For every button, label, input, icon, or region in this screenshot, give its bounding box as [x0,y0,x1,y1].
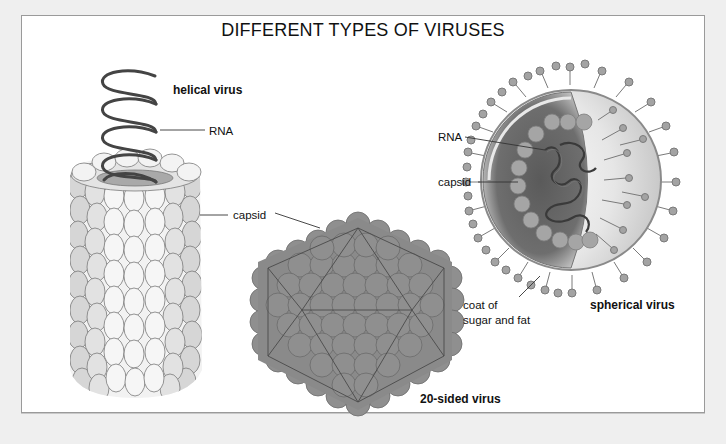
helical-virus-illustration [60,71,210,410]
icosahedral-virus-illustration [250,210,464,420]
label-helical-capsid: capsid [233,208,266,222]
label-helical-virus: helical virus [173,83,242,97]
virus-illustrations [0,0,726,444]
label-sphere-capsid: capsid [438,175,471,189]
label-spherical-virus: spherical virus [590,298,675,312]
label-sphere-coat-line2: sugar and fat [463,313,530,327]
label-20-sided-virus: 20-sided virus [420,392,501,406]
label-sphere-coat-line1: coat of [463,298,498,312]
spherical-virus-illustration [462,60,680,297]
label-sphere-rna: RNA [438,130,462,144]
label-helical-rna: RNA [209,124,233,138]
